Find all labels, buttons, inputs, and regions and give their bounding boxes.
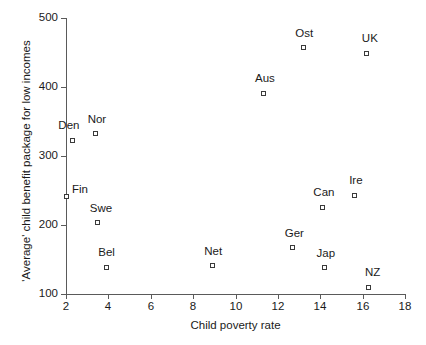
x-tick-label: 18 (393, 300, 417, 312)
x-tick-mark (66, 294, 67, 299)
data-point-marker[interactable] (210, 263, 215, 268)
x-tick-label: 6 (139, 300, 163, 312)
data-point-marker[interactable] (366, 285, 371, 290)
x-tick-label: 12 (266, 300, 290, 312)
data-point-label: Net (204, 245, 222, 257)
data-point-label: Ger (285, 227, 304, 239)
x-tick-label: 4 (96, 300, 120, 312)
y-tick-mark (61, 18, 66, 19)
data-point-marker[interactable] (70, 138, 75, 143)
y-tick-label: 500 (26, 11, 58, 23)
x-tick-mark (236, 294, 237, 299)
data-point-marker[interactable] (104, 265, 109, 270)
data-point-marker[interactable] (64, 194, 69, 199)
data-point-label: Bel (98, 246, 115, 258)
x-tick-mark (363, 294, 364, 299)
x-tick-label: 14 (308, 300, 332, 312)
data-point-marker[interactable] (322, 265, 327, 270)
x-tick-mark (320, 294, 321, 299)
scatter-chart: 100200300400500 24681012141618 'Average'… (0, 0, 426, 345)
data-point-label: Can (313, 186, 334, 198)
data-point-label: Aus (255, 72, 275, 84)
x-tick-mark (278, 294, 279, 299)
data-point-marker[interactable] (301, 45, 306, 50)
data-point-label: Ost (295, 27, 313, 39)
y-axis-line (66, 18, 67, 294)
x-tick-mark (193, 294, 194, 299)
y-tick-mark (61, 87, 66, 88)
data-point-label: NZ (365, 266, 380, 278)
x-tick-mark (108, 294, 109, 299)
data-point-label: Nor (88, 113, 107, 125)
data-point-marker[interactable] (364, 51, 369, 56)
data-point-label: Fin (72, 183, 88, 195)
y-tick-mark (61, 156, 66, 157)
data-point-label: Swe (90, 202, 112, 214)
x-axis-title: Child poverty rate (66, 319, 405, 331)
data-point-label: UK (362, 32, 378, 44)
data-point-marker[interactable] (290, 245, 295, 250)
data-point-marker[interactable] (93, 131, 98, 136)
data-point-label: Jap (316, 247, 335, 259)
x-tick-mark (405, 294, 406, 299)
y-tick-mark (61, 225, 66, 226)
y-axis-title: 'Average' child benefit package for low … (20, 36, 32, 286)
x-tick-mark (151, 294, 152, 299)
data-point-marker[interactable] (261, 91, 266, 96)
data-point-marker[interactable] (320, 205, 325, 210)
data-point-label: Ire (349, 174, 362, 186)
x-tick-label: 2 (54, 300, 78, 312)
x-tick-label: 16 (351, 300, 375, 312)
data-point-marker[interactable] (95, 220, 100, 225)
x-tick-label: 10 (224, 300, 248, 312)
y-tick-label: 100 (26, 287, 58, 299)
x-tick-label: 8 (181, 300, 205, 312)
data-point-marker[interactable] (352, 193, 357, 198)
data-point-label: Den (58, 119, 79, 131)
